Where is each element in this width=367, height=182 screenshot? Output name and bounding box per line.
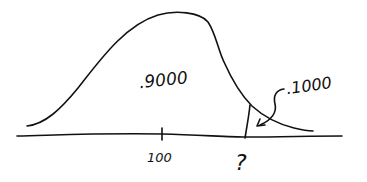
cutoff-axis-label: ? <box>235 150 247 175</box>
cutoff-line <box>245 105 250 138</box>
normal-curve-diagram: .9000 .1000 100 ? <box>0 0 367 182</box>
mean-axis-label: 100 <box>147 150 172 165</box>
body-area-label: .9000 <box>138 67 188 92</box>
x-axis-baseline <box>17 134 342 137</box>
tail-area-label: .1000 <box>285 73 333 98</box>
